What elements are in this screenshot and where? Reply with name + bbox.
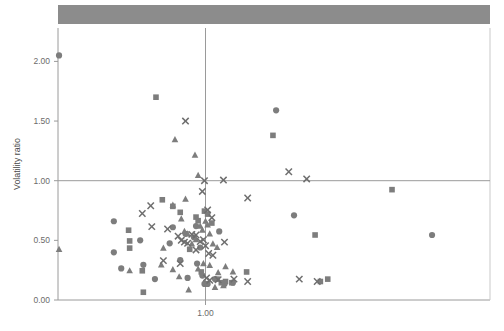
y-tick-label: 2.00: [33, 56, 50, 66]
data-point-square: [244, 269, 250, 275]
data-point-circle: [429, 232, 435, 238]
data-point-circle: [185, 275, 191, 281]
data-point-circle: [170, 224, 176, 230]
data-point-square: [139, 268, 145, 274]
data-point-cross: [209, 214, 215, 220]
series-square: [126, 94, 395, 295]
header-bar: [58, 5, 490, 24]
data-point-square: [312, 232, 318, 238]
data-point-square: [177, 210, 183, 216]
y-tick-label: 1.00: [33, 176, 50, 186]
data-point-circle: [137, 237, 143, 243]
data-point-triangle: [126, 267, 133, 273]
data-point-circle: [152, 276, 158, 282]
y-tick-label: 0.50: [33, 235, 50, 245]
data-point-triangle: [170, 266, 177, 272]
data-point-triangle: [210, 240, 217, 246]
data-point-triangle: [192, 151, 199, 157]
data-point-cross: [182, 118, 188, 124]
data-point-triangle: [230, 268, 237, 274]
data-point-triangle: [206, 230, 213, 236]
data-point-square: [187, 246, 193, 252]
data-point-cross: [160, 257, 166, 263]
data-point-triangle: [215, 269, 222, 275]
data-point-cross: [164, 226, 170, 232]
data-point-square: [127, 245, 133, 251]
data-point-square: [389, 187, 395, 193]
data-point-circle: [167, 240, 173, 246]
data-point-cross: [199, 188, 205, 194]
data-point-cross: [244, 278, 250, 284]
data-point-square: [126, 227, 132, 233]
y-tick-label: 0.00: [33, 295, 50, 305]
data-point-triangle: [185, 286, 192, 292]
data-point-triangle: [222, 263, 229, 269]
data-point-cross: [244, 195, 250, 201]
data-point-cross: [148, 203, 154, 209]
data-point-circle: [273, 107, 279, 113]
scatter-plot-figure: 0.000.501.001.502.001.00Volatility ratio: [0, 0, 504, 331]
data-point-cross: [220, 177, 226, 183]
data-point-triangle: [172, 136, 179, 142]
data-point-circle: [194, 261, 200, 267]
data-point-cross: [286, 169, 292, 175]
data-point-square: [195, 218, 201, 224]
data-point-triangle: [160, 245, 167, 251]
data-point-square: [160, 197, 166, 203]
data-point-square: [127, 238, 133, 244]
data-point-square: [209, 220, 215, 226]
data-point-square: [141, 289, 147, 295]
data-point-circle: [118, 265, 124, 271]
data-point-circle: [56, 52, 62, 58]
series-cross: [139, 118, 320, 285]
series-circle: [56, 52, 435, 287]
data-points-group: [56, 52, 435, 295]
data-point-triangle: [178, 215, 185, 221]
data-point-square: [270, 133, 276, 139]
data-point-square: [325, 276, 331, 282]
data-point-circle: [216, 228, 222, 234]
data-point-cross: [221, 239, 227, 245]
y-tick-label: 1.50: [33, 116, 50, 126]
data-point-square: [153, 94, 159, 100]
plot-canvas: 0.000.501.001.502.001.00Volatility ratio: [0, 0, 504, 331]
data-point-cross: [139, 210, 145, 216]
data-point-circle: [111, 218, 117, 224]
data-point-triangle: [212, 284, 219, 290]
data-point-triangle: [206, 262, 213, 268]
data-point-cross: [296, 276, 302, 282]
data-point-triangle: [176, 273, 183, 279]
data-point-circle: [111, 249, 117, 255]
data-point-cross: [149, 223, 155, 229]
data-point-triangle: [182, 196, 189, 202]
data-point-triangle: [195, 172, 202, 178]
data-point-triangle: [56, 246, 63, 252]
y-axis-title: Volatility ratio: [12, 138, 22, 190]
data-point-circle: [140, 262, 146, 268]
data-point-circle: [291, 212, 297, 218]
x-tick-label: 1.00: [197, 308, 214, 318]
